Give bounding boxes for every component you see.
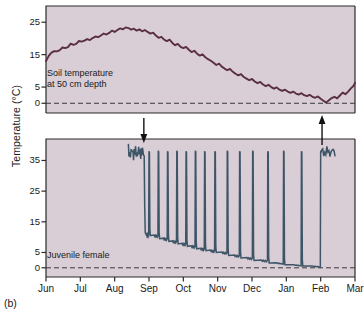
soil-temperature-annotation: Soil temperature at 50 cm depth (47, 68, 113, 90)
y-tick-label: 25 (14, 185, 40, 196)
soil-temperature-panel-background (46, 6, 355, 113)
y-tick-label: 5 (14, 81, 40, 92)
soil-annotation-line1: Soil temperature (47, 68, 113, 79)
y-tick-label: 35 (14, 154, 40, 165)
emergence-arrow-head (319, 115, 326, 124)
panel-caption: (b) (4, 297, 17, 309)
chart-svg (0, 0, 364, 315)
y-tick-label: 0 (14, 262, 40, 273)
y-tick-label: 0 (14, 97, 40, 108)
y-tick-label: 15 (14, 49, 40, 60)
x-tick-label-mar: Mar (335, 283, 364, 294)
figure-panel-b: Temperature (°C) (b) Soil temperature at… (0, 0, 364, 315)
y-axis-title: Temperature (°C) (10, 56, 22, 196)
y-tick-label: 15 (14, 216, 40, 227)
y-tick-label: 5 (14, 246, 40, 257)
soil-annotation-line2: at 50 cm depth (47, 79, 113, 90)
y-tick-label: 25 (14, 16, 40, 27)
soil-temperature-panel (42, 6, 356, 113)
juvenile-female-annotation: Juvenile female (47, 250, 110, 261)
